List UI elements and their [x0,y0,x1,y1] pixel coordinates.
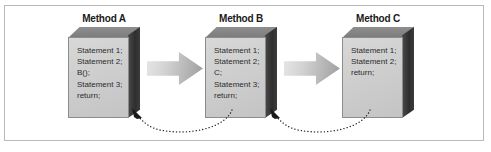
box-side-face-c [402,27,414,118]
method-a-heading: Method A [68,13,140,24]
statement-line: Statement 3; [77,79,124,90]
statement-line: return; [77,90,124,101]
method-c-statement-list: Statement 1; Statement 2; return; [351,45,398,79]
statement-line: return; [351,67,398,78]
method-c-box: Statement 1; Statement 2; return; [342,27,414,118]
statement-line: Statement 2; [351,56,398,67]
statement-line: Statement 1; [351,45,398,56]
statement-line: Statement 2; [77,56,124,67]
statement-line: Statement 1; [77,45,124,56]
statement-line: return; [214,90,261,101]
box-side-face-a [128,27,140,118]
method-b-statement-list: Statement 1; Statement 2; C; Statement 3… [214,45,261,101]
box-front-face-c: Statement 1; Statement 2; return; [342,37,403,118]
method-a-statement-list: Statement 1; Statement 2; B(); Statement… [77,45,124,101]
statement-line: Statement 1; [214,45,261,56]
method-c-heading: Method C [342,13,414,24]
statement-line: C; [214,67,261,78]
statement-line: Statement 3; [214,79,261,90]
statement-line: B(); [77,67,124,78]
statement-line: Statement 2; [214,56,261,67]
box-front-face-a: Statement 1; Statement 2; B(); Statement… [68,37,129,118]
method-a-box: Statement 1; Statement 2; B(); Statement… [68,27,140,118]
figure-canvas: Method A Statement 1; Statement 2; B(); … [0,0,491,152]
box-side-face-b [265,27,277,118]
method-b-heading: Method B [205,13,277,24]
box-front-face-b: Statement 1; Statement 2; C; Statement 3… [205,37,266,118]
method-b-box: Statement 1; Statement 2; C; Statement 3… [205,27,277,118]
